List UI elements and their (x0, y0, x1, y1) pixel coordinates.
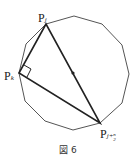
label-pj: Pj (38, 9, 47, 25)
figure: Pj Pk Pj+n2 図 6 (0, 0, 136, 156)
label-pk: Pk (4, 67, 14, 83)
figure-caption: 図 6 (0, 143, 136, 156)
label-pjn2: Pj+n2 (100, 125, 116, 142)
right-angle-marker (24, 65, 31, 77)
center-dot (71, 71, 74, 74)
